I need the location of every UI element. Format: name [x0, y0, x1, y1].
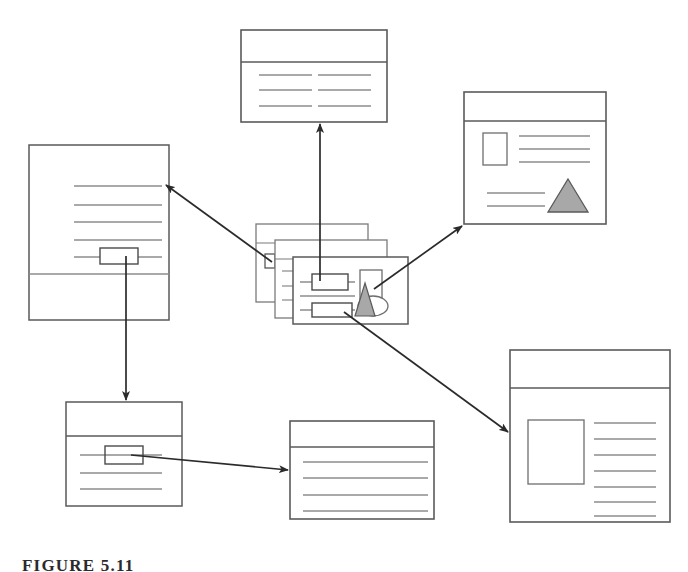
figure-root: FIGURE 5.11: [0, 0, 688, 572]
center-stack-highlight-rect-lower[interactable]: [312, 303, 352, 317]
center-stack-front-sheet: [293, 257, 408, 324]
top-right-document[interactable]: [464, 92, 606, 224]
document-link-diagram: [0, 0, 688, 572]
top-document[interactable]: [241, 30, 387, 122]
left-document[interactable]: [29, 145, 169, 320]
bottom-right-document[interactable]: [510, 350, 670, 522]
bottom-right-document-image-box: [528, 420, 584, 484]
left-document-frame: [29, 145, 169, 320]
bottom-left-document[interactable]: [66, 402, 182, 506]
left-document-highlight-rect[interactable]: [100, 248, 138, 264]
bottom-center-document-frame: [290, 421, 434, 519]
bottom-center-document[interactable]: [290, 421, 434, 519]
figure-caption: FIGURE 5.11: [22, 556, 134, 572]
center-stack-highlight-rect-upper[interactable]: [312, 274, 348, 290]
top-right-document-image-box: [483, 133, 507, 165]
bottom-left-document-frame: [66, 402, 182, 506]
top-document-frame: [241, 30, 387, 122]
